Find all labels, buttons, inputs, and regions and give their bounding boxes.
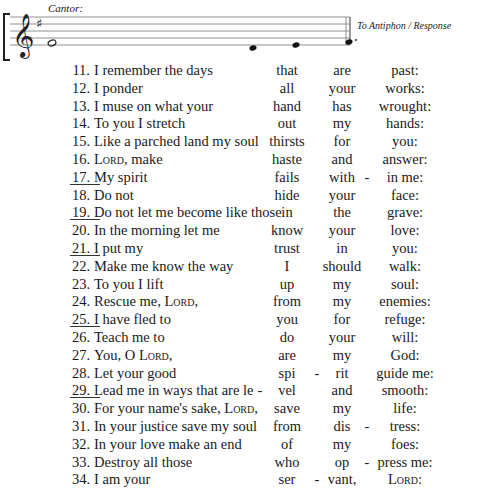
verse-number: 28. [68, 365, 90, 383]
pointing-syllable-3: tress: [370, 418, 440, 436]
verse-text: I put my [94, 240, 143, 258]
verse-row: 23.To you I liftupmysoul: [0, 276, 477, 294]
verse-row: 27.You, O Lord,aremyGod: [0, 347, 477, 365]
pointing-syllable-1: of [262, 436, 312, 454]
cantor-label: Cantor: [48, 2, 83, 14]
pointing-syllable-3: answer: [370, 151, 440, 169]
pointing-syllable-3: guide me: [370, 365, 440, 383]
verse-number: 12. [68, 80, 90, 98]
verse-text: I ponder [94, 80, 143, 98]
pointing-syllable-3: enemies: [370, 293, 440, 311]
pointing-syllable-1: spi [262, 365, 312, 383]
pointing-syllable-3: you: [370, 240, 440, 258]
verse-number: 22. [68, 258, 90, 276]
pointing-syllable-3: smooth: [370, 382, 440, 400]
pointing-syllable-3: works: [370, 80, 440, 98]
verse-text: Do not let me become like those [94, 204, 282, 222]
hyphen-1: - [255, 382, 265, 400]
pointing-syllable-1: up [262, 276, 312, 294]
pointing-syllable-1: you [262, 311, 312, 329]
pointing-syllable-2: my [317, 400, 367, 418]
pointing-syllable-1: hand [262, 98, 312, 116]
pointing-syllable-3: God: [370, 347, 440, 365]
verse-row: 18.Do nothideyourface: [0, 187, 477, 205]
pointing-syllable-3: you: [370, 133, 440, 151]
pointing-syllable-3: refuge: [370, 311, 440, 329]
verse-text: To you I lift [94, 276, 163, 294]
verse-row: 17.My spiritfailswith-in me: [0, 169, 477, 187]
pointing-syllable-1: hide [262, 187, 312, 205]
verse-number: 16. [68, 151, 90, 169]
verse-row: 29.Lead me in ways that are level-andsmo… [0, 382, 477, 400]
verse-number: 19. [68, 204, 90, 222]
psalm-verses: 11.I remember the daysthatarepast:12.I p… [0, 62, 477, 489]
verse-row: 19.Do not let me become like thoseintheg… [0, 204, 477, 222]
pointing-syllable-1: save [262, 400, 312, 418]
pointing-syllable-1: that [262, 62, 312, 80]
pointing-syllable-2: vant, [317, 471, 367, 489]
verse-number: 32. [68, 436, 90, 454]
verse-number: 14. [68, 115, 90, 133]
pointing-syllable-1: ser [262, 471, 312, 489]
verse-number: 31. [68, 418, 90, 436]
verse-number: 26. [68, 329, 90, 347]
pointing-syllable-1: do [262, 329, 312, 347]
verse-text: In your love make an end [94, 436, 242, 454]
verse-row: 33.Destroy all thosewhoop-press me: [0, 454, 477, 472]
verse-row: 14.To you I stretchoutmyhands: [0, 115, 477, 133]
pointing-syllable-2: your [317, 187, 367, 205]
pointing-syllable-2: has [317, 98, 367, 116]
verse-text: In the morning let me [94, 222, 220, 240]
verse-number: 27. [68, 347, 90, 365]
pointing-syllable-2: your [317, 222, 367, 240]
pointing-syllable-2: and [317, 151, 367, 169]
pointing-syllable-3: Lord: [370, 471, 440, 489]
verse-number: 17. [68, 169, 90, 187]
pointing-syllable-2: and [317, 382, 367, 400]
verse-row: 21.I put mytrustinyou: [0, 240, 477, 258]
pointing-syllable-1: out [262, 115, 312, 133]
pointing-syllable-2: my [317, 347, 367, 365]
verse-text: You, O Lord, [94, 347, 172, 365]
pointing-syllable-1: in [262, 204, 312, 222]
pointing-syllable-1: thirsts [262, 133, 312, 151]
verse-number: 13. [68, 98, 90, 116]
pointing-syllable-3: press me: [370, 454, 440, 472]
verse-number: 29. [68, 382, 90, 400]
pointing-syllable-1: vel [262, 382, 312, 400]
pointing-syllable-2: rit [317, 365, 367, 383]
pointing-syllable-2: with [317, 169, 367, 187]
verse-text: Like a parched land my soul [94, 133, 259, 151]
verse-row: 25.I have fled toyouforrefuge: [0, 311, 477, 329]
pointing-syllable-1: I [262, 258, 312, 276]
pointing-syllable-1: trust [262, 240, 312, 258]
pointing-syllable-1: who [262, 454, 312, 472]
verse-row: 24.Rescue me, Lord,frommyenemies: [0, 293, 477, 311]
pointing-syllable-3: soul: [370, 276, 440, 294]
pointing-syllable-2: the [317, 204, 367, 222]
verse-text: I remember the days [94, 62, 213, 80]
pointing-syllable-3: in me: [370, 169, 440, 187]
pointing-syllable-1: know [262, 222, 312, 240]
verse-row: 26.Teach me todoyourwill: [0, 329, 477, 347]
verse-text: To you I stretch [94, 115, 185, 133]
pointing-syllable-2: for [317, 133, 367, 151]
music-staff: 𝄞 ♯ Cantor: To Antiphon / Response [0, 0, 477, 62]
pointing-syllable-2: dis [317, 418, 367, 436]
pointing-syllable-1: all [262, 80, 312, 98]
pointing-syllable-2: for [317, 311, 367, 329]
verse-text: I have fled to [94, 311, 171, 329]
verse-number: 33. [68, 454, 90, 472]
verse-row: 15.Like a parched land my soulthirstsfor… [0, 133, 477, 151]
pointing-syllable-3: grave: [370, 204, 440, 222]
verse-number: 20. [68, 222, 90, 240]
verse-text: I am your [94, 471, 150, 489]
pointing-syllable-2: your [317, 80, 367, 98]
verse-text: Destroy all those [94, 454, 192, 472]
pointing-syllable-2: in [317, 240, 367, 258]
verse-number: 11. [68, 62, 90, 80]
verse-number: 30. [68, 400, 90, 418]
verse-text: Do not [94, 187, 134, 205]
antiphon-label: To Antiphon / Response [357, 20, 451, 31]
verse-number: 21. [68, 240, 90, 258]
